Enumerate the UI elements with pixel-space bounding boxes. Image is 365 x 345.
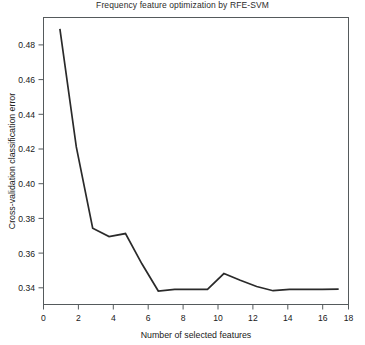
y-tick-label: 0.44 bbox=[18, 110, 35, 120]
figure-container: Frequency feature optimization by RFE-SV… bbox=[0, 0, 365, 345]
x-axis-tick-labels: 0 2 4 6 8 10 12 14 16 18 bbox=[41, 313, 353, 323]
chart-plot: 0.34 0.36 0.38 0.40 0.42 0.44 0.46 0.48 … bbox=[0, 0, 365, 345]
y-tick-label: 0.34 bbox=[18, 283, 35, 293]
x-tick-label: 2 bbox=[76, 313, 81, 323]
x-tick-label: 6 bbox=[146, 313, 151, 323]
x-tick-label: 18 bbox=[344, 313, 354, 323]
x-axis-ticks bbox=[44, 305, 349, 310]
y-tick-label: 0.42 bbox=[18, 144, 35, 154]
y-tick-label: 0.40 bbox=[18, 179, 35, 189]
y-tick-label: 0.46 bbox=[18, 75, 35, 85]
data-series-line bbox=[60, 29, 339, 291]
y-axis-ticks bbox=[39, 45, 44, 288]
x-tick-label: 14 bbox=[283, 313, 293, 323]
x-tick-label: 0 bbox=[41, 313, 46, 323]
x-tick-label: 4 bbox=[111, 313, 116, 323]
x-axis-title: Number of selected features bbox=[141, 330, 252, 340]
y-axis-title: Cross-validation classification error bbox=[7, 93, 17, 229]
x-tick-label: 8 bbox=[181, 313, 186, 323]
y-tick-label: 0.48 bbox=[18, 40, 35, 50]
y-tick-label: 0.38 bbox=[18, 214, 35, 224]
x-tick-label: 16 bbox=[318, 313, 328, 323]
plot-frame bbox=[44, 18, 349, 305]
x-tick-label: 12 bbox=[248, 313, 258, 323]
x-tick-label: 10 bbox=[213, 313, 223, 323]
y-tick-label: 0.36 bbox=[18, 249, 35, 259]
y-axis-tick-labels: 0.34 0.36 0.38 0.40 0.42 0.44 0.46 0.48 bbox=[18, 40, 35, 293]
